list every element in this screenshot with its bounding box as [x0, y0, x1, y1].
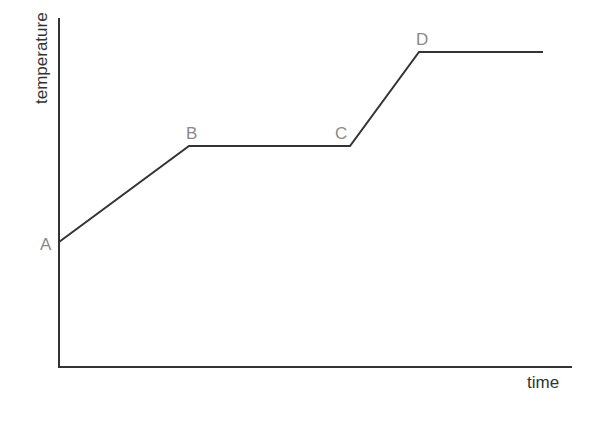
- heating-curve-chart: temperature time A B C D: [0, 0, 604, 433]
- temperature-curve: [59, 52, 543, 242]
- x-axis-label: time: [527, 373, 559, 392]
- point-label-b: B: [186, 124, 197, 143]
- y-axis-label: temperature: [32, 12, 51, 104]
- point-label-d: D: [416, 30, 428, 49]
- point-label-c: C: [335, 124, 347, 143]
- point-label-a: A: [40, 235, 52, 254]
